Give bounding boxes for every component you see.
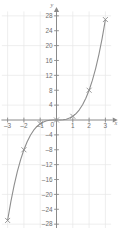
x-tick-label: 3	[104, 122, 108, 129]
x-tick-label: 0	[51, 121, 55, 128]
y-tick-label: –24	[42, 206, 53, 213]
y-tick-label: –4	[45, 131, 53, 138]
x-tick-label: 1	[71, 122, 75, 129]
y-tick-label: –20	[42, 191, 53, 198]
y-tick-label: 16	[45, 57, 53, 64]
x-tick-label: –3	[4, 122, 12, 129]
y-tick-label: 12	[45, 72, 53, 79]
y-tick-label: 24	[45, 27, 53, 34]
x-tick-label: –2	[20, 122, 28, 129]
x-tick-label: –1	[37, 122, 45, 129]
y-tick-label: –12	[42, 161, 53, 168]
y-tick-label: –8	[45, 146, 53, 153]
x-axis-label: x	[114, 119, 118, 126]
y-tick-label: 28	[45, 12, 53, 19]
y-axis-label: y	[50, 1, 54, 8]
y-tick-label: 4	[49, 101, 53, 108]
chart-svg: –3–2–10123–28–24–20–16–12–8–448121620242…	[0, 0, 121, 228]
y-tick-label: 8	[49, 87, 53, 94]
cubic-function-graph: –3–2–10123–28–24–20–16–12–8–448121620242…	[0, 0, 121, 228]
y-tick-label: 20	[45, 42, 53, 49]
y-tick-label: –28	[42, 220, 53, 227]
x-tick-label: 2	[87, 122, 91, 129]
y-tick-label: –16	[42, 176, 53, 183]
